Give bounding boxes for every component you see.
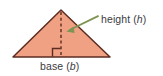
- height-label-text: height (: [101, 13, 137, 25]
- height-label-suffix: ): [143, 13, 147, 25]
- base-label-suffix: ): [76, 60, 80, 72]
- triangle-area-diagram: height (h) base (b): [0, 0, 163, 76]
- height-label: height (h): [101, 13, 146, 25]
- diagram-canvas: [0, 0, 163, 76]
- base-label-text: base (: [40, 60, 70, 72]
- base-label: base (b): [40, 60, 79, 72]
